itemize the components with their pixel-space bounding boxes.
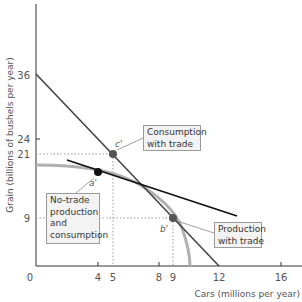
x-tick-label-5: 5 [110,272,116,283]
point-label-c: c' [115,139,122,149]
annotation-no-trade: No-trade production and consumption [46,193,100,244]
point-b [169,214,177,222]
y-axis-title: Grain (billions of bushels per year) [5,57,15,213]
y-tick-label-9: 9 [24,213,30,224]
point-c [109,150,117,158]
x-tick-label-9: 9 [170,272,176,283]
x-tick-label-8: 8 [156,272,162,283]
point-label-b: b' [160,224,168,234]
annotation-line: Production [218,224,258,236]
point-a [94,168,102,176]
origin-label: 0 [27,272,33,283]
chart: c' a' b' 36 24 21 9 0 4 5 8 9 12 16 Cars… [0,0,302,302]
annotation-line: consumption [50,230,96,242]
annotation-consumption-with-trade: Consumption with trade [143,125,201,151]
annotation-line: and [50,218,96,230]
annotation-line: with trade [147,139,197,151]
annotation-line: production [50,207,96,219]
point-label-a: a' [89,178,97,188]
x-axis-title: Cars (millions per year) [195,289,301,299]
annotation-line: Consumption [147,127,197,139]
y-tick-label-36: 36 [17,70,30,81]
x-tick-label-12: 12 [213,272,226,283]
annotation-production-with-trade: Production with trade [214,222,262,248]
annotation-line: No-trade [50,195,96,207]
y-tick-label-24: 24 [17,134,30,145]
x-tick-label-16: 16 [275,272,288,283]
y-tick-label-21: 21 [17,149,30,160]
annotation-line: with trade [218,236,258,248]
x-tick-label-4: 4 [95,272,101,283]
